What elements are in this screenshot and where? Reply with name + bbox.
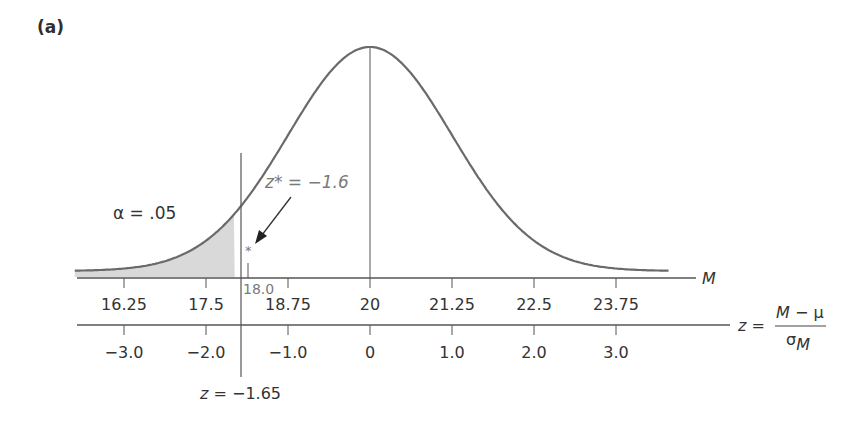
m-tick-label: 23.75 xyxy=(593,295,639,314)
sample-mean-label: 18.0 xyxy=(243,281,274,297)
critical-z-label: z = −1.65 xyxy=(199,384,281,403)
m-tick-label: 22.5 xyxy=(516,295,552,314)
m-axis-ticks: 16.2517.518.752021.2522.523.75 xyxy=(101,278,639,314)
m-tick-label: 17.5 xyxy=(188,295,224,314)
z-tick-label: −1.0 xyxy=(269,343,308,362)
z-formula-denominator: σM xyxy=(786,330,810,354)
rejection-region xyxy=(75,215,235,278)
star-marker: * xyxy=(245,243,252,258)
m-tick-label: 16.25 xyxy=(101,295,147,314)
z-star-annotation: z* = −1.6 xyxy=(264,172,349,192)
z-tick-label: 2.0 xyxy=(521,343,546,362)
z-tick-label: 3.0 xyxy=(603,343,628,362)
z-tick-label: 1.0 xyxy=(439,343,464,362)
m-axis-label: M xyxy=(702,269,716,288)
normal-curve xyxy=(75,47,669,271)
normal-distribution-chart: 16.2517.518.752021.2522.523.75 M 18.0 * … xyxy=(0,0,862,436)
z-tick-label: −3.0 xyxy=(105,343,144,362)
m-tick-label: 18.75 xyxy=(265,295,311,314)
alpha-annotation: α = .05 xyxy=(113,203,176,223)
arrow-shaft xyxy=(262,197,291,235)
arrow-head-icon xyxy=(255,230,267,244)
z-formula-numerator: M − μ xyxy=(776,303,824,322)
m-tick-label: 21.25 xyxy=(429,295,475,314)
z-tick-label: 0 xyxy=(365,343,375,362)
z-formula-lhs: z = xyxy=(737,316,765,335)
m-tick-label: 20 xyxy=(360,295,380,314)
z-axis-ticks: −3.0−2.0−1.001.02.03.0 xyxy=(105,325,629,362)
z-tick-label: −2.0 xyxy=(187,343,226,362)
